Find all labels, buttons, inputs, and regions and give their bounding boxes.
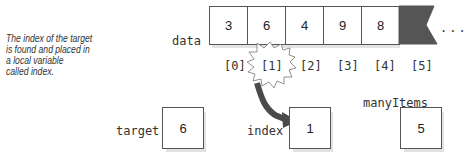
target-label: target — [116, 124, 159, 138]
index-label-1: [1] — [261, 59, 283, 73]
index-label-2: [2] — [300, 59, 322, 73]
index-label-4: [4] — [374, 59, 396, 73]
manyitems-box: 5 — [400, 107, 442, 149]
index-box: 1 — [289, 107, 331, 149]
index-label-3: [3] — [337, 59, 359, 73]
target-box: 6 — [162, 107, 204, 149]
ellipsis: ... — [440, 21, 468, 35]
index-var-label: index — [247, 124, 283, 138]
unused-cell-icon — [399, 6, 437, 44]
index-label-0: [0] — [224, 59, 246, 73]
index-label-5: [5] — [411, 59, 433, 73]
